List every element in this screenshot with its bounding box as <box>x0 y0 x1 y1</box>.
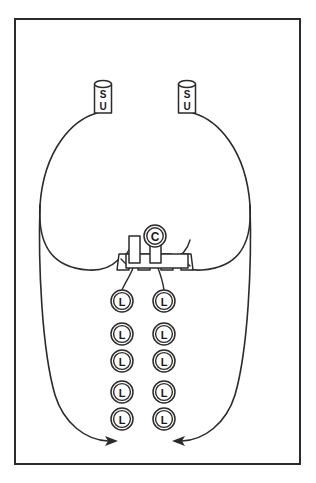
c-node-label: C <box>151 230 160 244</box>
su-right: S U <box>179 80 196 113</box>
su-left-label-bottom: U <box>99 101 106 112</box>
loop-right-upper <box>172 113 250 270</box>
loop-left-lower <box>40 205 108 441</box>
diagram-canvas: C S U S U LLLLLLLLLL <box>0 0 316 483</box>
chain-left: LLLLL <box>111 290 133 430</box>
loop-left-upper <box>40 113 118 270</box>
l-chain-group: LLLLLLLLLL <box>111 290 175 430</box>
su-right-label-bottom: U <box>183 101 190 112</box>
chain-right: LLLLL <box>153 290 175 430</box>
chain-left-node-5-label: L <box>119 414 126 426</box>
chain-right-node-5-label: L <box>161 414 168 426</box>
stem-left <box>122 268 133 290</box>
chain-right-node-3-label: L <box>161 356 168 368</box>
loop-right-lower <box>182 205 250 441</box>
su-right-label-top: S <box>184 89 191 100</box>
su-left-label-top: S <box>100 89 107 100</box>
su-left: S U <box>95 80 112 113</box>
post-left <box>129 236 140 263</box>
su-right-cap <box>179 80 196 87</box>
chain-left-node-2-label: L <box>119 329 126 341</box>
figure-root: C S U S U LLLLLLLLLL <box>0 0 316 483</box>
chain-left-node-1-label: L <box>119 296 126 308</box>
chain-left-node-4-label: L <box>119 387 126 399</box>
stem-right <box>158 268 164 290</box>
chain-left-node-3-label: L <box>119 356 126 368</box>
chain-right-node-2-label: L <box>161 329 168 341</box>
chain-right-node-1-label: L <box>161 296 168 308</box>
su-left-cap <box>95 80 112 87</box>
chain-right-node-4-label: L <box>161 387 168 399</box>
